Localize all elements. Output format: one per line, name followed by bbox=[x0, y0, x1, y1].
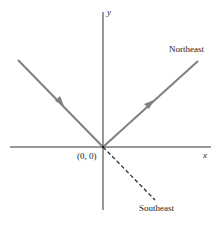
origin-point bbox=[102, 146, 104, 148]
direction-diagram bbox=[0, 0, 223, 225]
southeast-ray bbox=[103, 147, 155, 200]
southeast-label: Southeast bbox=[139, 204, 174, 213]
origin-label: (0, 0) bbox=[77, 152, 97, 161]
y-axis-label: y bbox=[107, 8, 111, 17]
x-axis-label: x bbox=[203, 151, 207, 160]
northeast-label: Northeast bbox=[169, 45, 204, 54]
incoming-arrowhead-icon bbox=[55, 96, 64, 106]
